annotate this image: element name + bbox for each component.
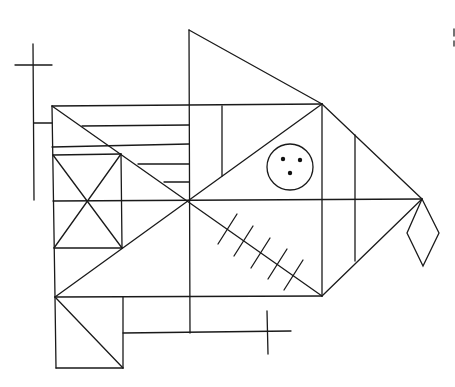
complex-figure-drawing (0, 0, 455, 387)
diagonal-with-five-ticks (218, 214, 303, 290)
bottom-cross (123, 311, 291, 354)
middle-horizontal (53, 199, 422, 201)
top-triangle-edge (189, 30, 322, 104)
circle-with-three-dots (267, 144, 313, 190)
bottom-left-square-with-diagonal (55, 297, 123, 368)
left-cross (15, 44, 52, 200)
